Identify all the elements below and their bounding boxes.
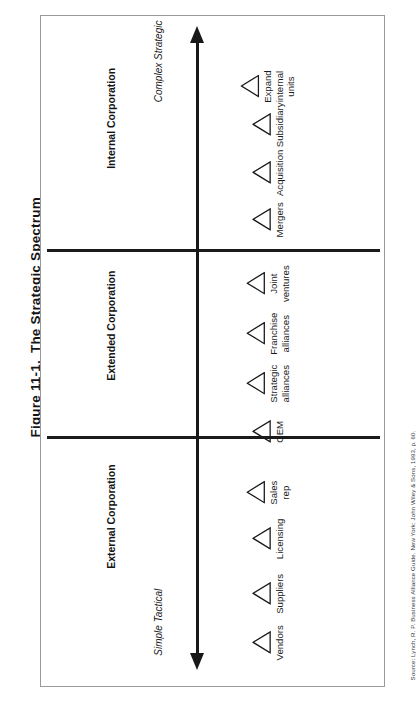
- band-label-internal: Internal Corporation: [105, 77, 119, 169]
- spectrum-item-label: Expand internal units: [262, 27, 297, 147]
- band-label-extended: Extended Corporation: [105, 289, 119, 381]
- spectrum-item: Expand internal units: [240, 27, 297, 147]
- triangle-marker-icon: [240, 75, 259, 98]
- figure-source-note: Source: Lynch, R. P. Business Alliance G…: [409, 361, 416, 681]
- band-divider-upper: [47, 249, 380, 252]
- axis-label-complex-strategic: Complex Strategic: [153, 22, 166, 102]
- band-divider-lower: [47, 436, 380, 439]
- axis-arrowhead-up-icon: [190, 26, 204, 43]
- diagram-frame: Complex Strategic Simple Tactical Intern…: [40, 15, 385, 687]
- spectrum-axis-line: [196, 40, 199, 662]
- band-label-external: External Corporation: [105, 477, 119, 569]
- axis-label-simple-tactical: Simple Tactical: [153, 582, 166, 662]
- axis-arrowhead-down-icon: [190, 653, 204, 670]
